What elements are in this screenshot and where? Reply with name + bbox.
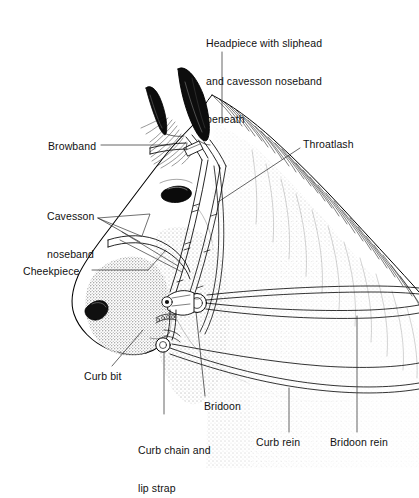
ears bbox=[146, 68, 210, 145]
label-curb-chain-line2: lip strap bbox=[138, 482, 211, 495]
label-cavesson-line2: noseband bbox=[47, 248, 95, 261]
label-curb-chain-line1: Curb chain and bbox=[138, 444, 211, 457]
label-curb-chain-lip-strap: Curb chain and lip strap bbox=[138, 419, 211, 498]
label-cheekpiece: Cheekpiece bbox=[23, 265, 79, 278]
label-cavesson-line1: Cavesson bbox=[47, 210, 95, 223]
label-bridoon: Bridoon bbox=[204, 400, 241, 413]
label-cavesson-noseband: Cavesson noseband bbox=[47, 185, 95, 273]
label-bridoon-rein: Bridoon rein bbox=[330, 436, 388, 449]
label-browband: Browband bbox=[48, 140, 96, 153]
leader-cavesson bbox=[98, 218, 140, 242]
label-headpiece-line1: Headpiece with sliphead bbox=[206, 37, 322, 50]
label-throatlash: Throatlash bbox=[303, 138, 354, 151]
label-curb-rein: Curb rein bbox=[256, 436, 300, 449]
label-headpiece: Headpiece with sliphead and cavesson nos… bbox=[206, 12, 322, 138]
label-curb-bit: Curb bit bbox=[84, 370, 122, 383]
forelock bbox=[141, 117, 196, 168]
label-headpiece-line3: beneath bbox=[206, 113, 322, 126]
label-headpiece-line2: and cavesson noseband bbox=[206, 75, 322, 88]
